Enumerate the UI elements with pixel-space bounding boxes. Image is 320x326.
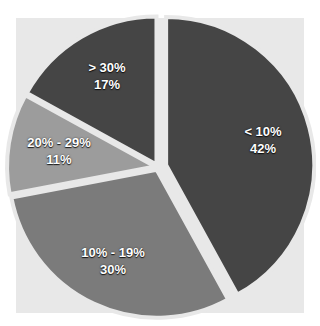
- label-10-19-category: 10% - 19%: [81, 244, 145, 261]
- label-lt10-category: < 10%: [244, 123, 281, 140]
- label-10-19-value: 30%: [81, 261, 145, 278]
- label-gt30-category: > 30%: [88, 59, 125, 76]
- label-20-29: 20% - 29% 11%: [27, 134, 91, 168]
- label-10-19: 10% - 19% 30%: [81, 244, 145, 278]
- label-lt10: < 10% 42%: [244, 123, 281, 157]
- label-gt30-value: 17%: [88, 76, 125, 93]
- label-gt30: > 30% 17%: [88, 59, 125, 93]
- label-20-29-value: 11%: [27, 151, 91, 168]
- label-lt10-value: 42%: [244, 140, 281, 157]
- label-20-29-category: 20% - 29%: [27, 134, 91, 151]
